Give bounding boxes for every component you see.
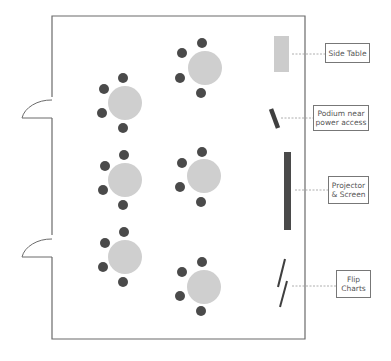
- door-lower: [22, 239, 52, 257]
- chair: [175, 73, 185, 83]
- chair: [175, 182, 185, 192]
- chair: [118, 73, 128, 83]
- table-group-4: [175, 147, 221, 207]
- table-group-6: [175, 257, 221, 316]
- chair: [175, 291, 185, 301]
- round-table: [187, 159, 221, 193]
- label-projector: Projector & Screen: [328, 176, 369, 204]
- chair: [98, 185, 108, 195]
- round-table: [108, 240, 142, 274]
- room-walls: [52, 16, 305, 339]
- chair: [197, 147, 207, 157]
- chair: [177, 48, 187, 58]
- flip-chart-1: [278, 259, 285, 287]
- chair: [99, 84, 109, 94]
- chair: [177, 267, 187, 277]
- projector-screen: [284, 152, 291, 230]
- round-table: [187, 270, 221, 304]
- chair: [100, 238, 110, 248]
- chair: [197, 38, 207, 48]
- chair: [119, 150, 129, 160]
- podium: [271, 109, 278, 128]
- round-table: [108, 163, 142, 197]
- table-group-3: [98, 150, 142, 210]
- flip-chart-2: [280, 281, 287, 307]
- table-group-2: [175, 38, 222, 98]
- chair: [97, 108, 107, 118]
- chair: [118, 123, 128, 133]
- label-podium: Podium near power access: [313, 105, 369, 131]
- chair: [118, 277, 128, 287]
- side-table: [274, 36, 289, 72]
- chair: [196, 88, 206, 98]
- label-flip-charts: Flip Charts: [336, 270, 371, 298]
- chair: [119, 227, 129, 237]
- chair: [196, 197, 206, 207]
- round-table: [188, 51, 222, 85]
- chair: [196, 306, 206, 316]
- chair: [197, 257, 207, 267]
- table-group-5: [98, 227, 142, 287]
- chair: [98, 262, 108, 272]
- round-table: [108, 86, 142, 120]
- door-upper: [22, 100, 52, 118]
- chair: [100, 161, 110, 171]
- label-side-table: Side Table: [325, 43, 370, 63]
- chair: [118, 200, 128, 210]
- chair: [177, 158, 187, 168]
- table-group-1: [97, 73, 142, 133]
